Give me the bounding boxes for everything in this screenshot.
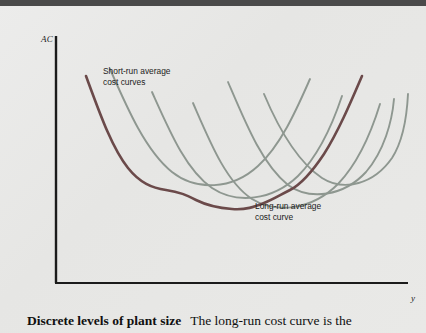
figure-caption-body: The long-run cost curve is the: [190, 313, 352, 328]
short-run-curves-annotation: Short-run average cost curves: [103, 66, 171, 87]
figure-area: AC y Short-run average cost curves Long-…: [0, 6, 426, 302]
long-run-curve-annotation: Long-run average cost curve: [255, 201, 321, 222]
figure-caption-title: Discrete levels of plant size: [27, 313, 181, 328]
cost-curves-chart: [0, 6, 426, 302]
short-run-cost-curve-2: [152, 92, 342, 198]
short-run-cost-curve-5: [264, 94, 408, 185]
figure-caption-text: Discrete levels of plant sizeThe long-ru…: [0, 313, 426, 329]
figure-page: AC y Short-run average cost curves Long-…: [0, 0, 426, 333]
figure-caption: Discrete levels of plant sizeThe long-ru…: [0, 302, 426, 333]
long-run-average-cost-curve: [86, 76, 362, 209]
short-run-annotation-line-2: cost curves: [103, 77, 171, 88]
y-axis-label: AC: [41, 34, 53, 44]
long-run-annotation-line-2: cost curve: [255, 212, 321, 223]
long-run-annotation-line-1: Long-run average: [255, 201, 321, 212]
short-run-annotation-line-1: Short-run average: [103, 66, 171, 77]
short-run-cost-curve-4: [228, 82, 394, 194]
